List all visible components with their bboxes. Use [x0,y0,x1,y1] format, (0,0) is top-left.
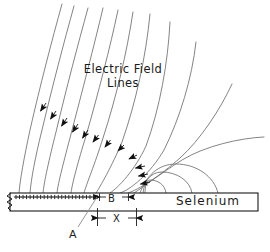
arrowhead-icon [105,140,111,147]
field-line [19,4,62,193]
arrowhead-icon [83,130,89,138]
arrowhead-icon [51,111,57,119]
label-a: A [69,228,77,241]
field-line [84,12,133,193]
electric-field-diagram [0,0,270,252]
arrowhead-icon [118,145,124,151]
field-line [30,6,74,193]
arrowhead-icon [139,174,149,176]
arrowhead-icon [136,166,146,168]
figure-title: Electric FieldLines [63,62,183,90]
label-b: B [108,193,115,204]
figure-title-line2: Lines [63,76,183,90]
figure-title-line1: Electric Field [84,62,162,76]
material-label: Selenium [176,194,240,208]
field-direction-arrowheads [41,103,151,184]
arrowhead-icon [93,135,99,142]
arrowhead-icon [41,103,47,111]
field-line [96,14,150,193]
field-line [140,164,218,193]
arrowhead-icon [129,155,137,159]
arrowhead-icon [62,118,68,126]
field-lines-group [19,4,264,193]
label-x: X [113,213,120,224]
